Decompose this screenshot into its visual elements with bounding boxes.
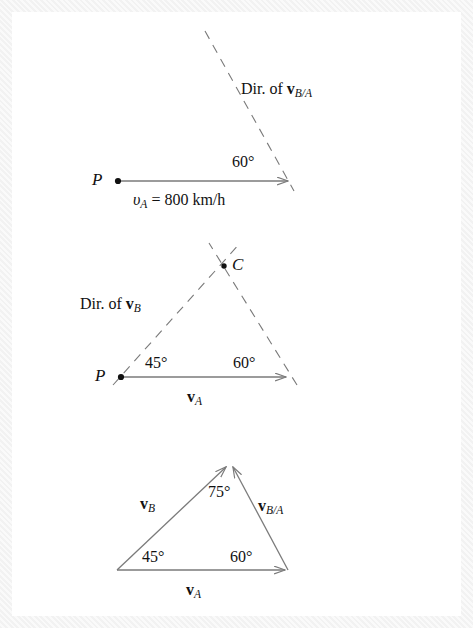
diagram2-angle-right-label: 60° xyxy=(233,355,255,371)
diagram3-angle-left-label: 45° xyxy=(142,549,164,565)
diagram1-point-p-dot xyxy=(115,178,121,184)
figure-vector-canvas xyxy=(0,0,473,628)
diagram3-vector-b-label: vB xyxy=(140,496,155,515)
diagram3-angle-apex-label: 75° xyxy=(208,484,230,500)
diagram1-direction-label: Dir. of vB/A xyxy=(241,81,312,100)
diagram3-vector-a-symbol: v xyxy=(186,581,194,598)
diagram2-point-c-label: C xyxy=(232,256,243,273)
diagram2-point-p-label: P xyxy=(95,367,105,384)
figure-page: Dir. of vB/A P 60° υA = 800 km/h C Dir. … xyxy=(0,0,473,628)
diagram3-vector-a-subscript: A xyxy=(194,588,201,600)
diagram1-speed-value: = 800 km/h xyxy=(147,191,225,208)
diagram2-dir-vector-subscript: B xyxy=(134,302,141,314)
diagram2-angle-left-label: 45° xyxy=(145,355,167,371)
diagram3-vector-ba-symbol: v xyxy=(258,497,266,514)
diagram2-dir-vector-symbol: v xyxy=(126,295,134,312)
diagram1-angle-label: 60° xyxy=(232,154,254,170)
diagram3-vector-a-label: vA xyxy=(186,582,201,601)
diagram1-point-p-label: P xyxy=(92,171,102,188)
diagram3-angle-right-label: 60° xyxy=(230,549,252,565)
diagram1-dir-vector-subscript: B/A xyxy=(295,87,312,99)
diagram1-dir-prefix: Dir. of xyxy=(241,80,287,97)
diagram3-vector-ba-label: vB/A xyxy=(258,498,283,517)
diagram1-group xyxy=(115,31,294,191)
diagram3-vector-b-symbol: v xyxy=(140,495,148,512)
diagram2-point-p-dot xyxy=(118,374,124,380)
diagram2-point-c-dot xyxy=(221,263,226,268)
diagram2-direction-label: Dir. of vB xyxy=(80,296,141,315)
diagram1-dir-vector-symbol: v xyxy=(287,80,295,97)
diagram2-vector-a-symbol: v xyxy=(187,388,195,405)
diagram2-vector-a-subscript: A xyxy=(195,395,202,407)
diagram2-dir-prefix: Dir. of xyxy=(80,295,126,312)
diagram3-vector-b-subscript: B xyxy=(148,502,155,514)
diagram2-vector-a-label: vA xyxy=(187,389,202,408)
diagram1-speed-label: υA = 800 km/h xyxy=(133,192,225,211)
diagram3-vector-ba-subscript: B/A xyxy=(266,504,283,516)
